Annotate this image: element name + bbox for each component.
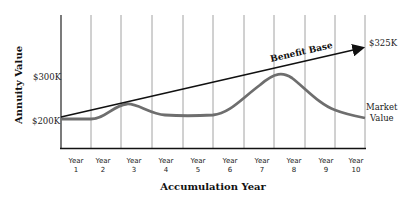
benefit-base-arrow [61,48,362,117]
svg-text:Year: Year [318,157,334,165]
svg-text:Year: Year [95,157,111,165]
svg-text:2: 2 [101,166,105,174]
svg-text:1: 1 [74,166,78,174]
svg-text:4: 4 [164,166,169,174]
market-label-1: Market [366,102,398,112]
svg-text:7: 7 [260,166,264,174]
svg-text:Year: Year [68,157,84,165]
y-tick-300k: $300K [33,72,62,82]
grid-lines [91,15,365,148]
svg-text:Year: Year [286,157,302,165]
right-325k-label: $325K [369,38,398,48]
svg-text:Year: Year [126,157,142,165]
svg-text:Year: Year [222,157,238,165]
svg-text:3: 3 [132,166,136,174]
svg-text:8: 8 [292,166,296,174]
x-axis-title: Accumulation Year [159,181,266,192]
x-tick-labels: Year 1 Year 2 Year 3 Year 4 Year 5 Year … [68,157,364,174]
market-label-2: Value [369,113,394,123]
y-tick-200k: $200K [32,116,61,126]
svg-text:Year: Year [190,157,206,165]
svg-text:5: 5 [196,166,200,174]
svg-text:Year: Year [158,157,174,165]
svg-text:Year: Year [254,157,270,165]
svg-text:9: 9 [324,166,328,174]
svg-text:10: 10 [352,166,361,174]
annuity-chart: Benefit Base $300K $200K $325K Market Va… [0,0,409,200]
benefit-base-label: Benefit Base [269,40,334,64]
svg-text:Year: Year [348,157,364,165]
svg-text:6: 6 [228,166,233,174]
y-axis-title: Annuity Value [13,46,24,125]
